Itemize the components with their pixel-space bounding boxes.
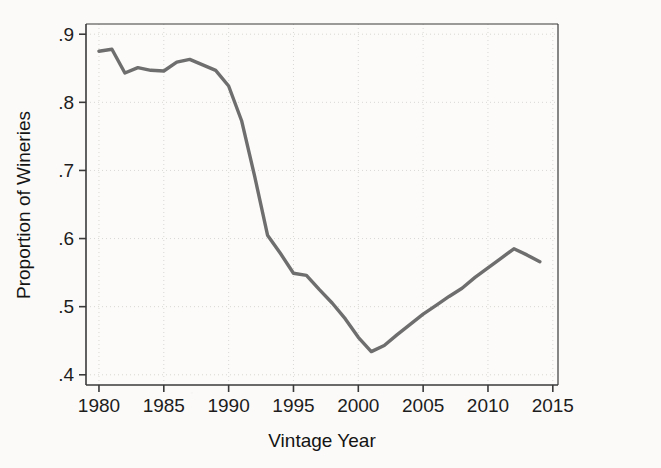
x-tick-label: 2015 bbox=[532, 395, 574, 416]
x-tick-label: 2010 bbox=[467, 395, 509, 416]
x-tick-label: 1995 bbox=[272, 395, 314, 416]
x-tick-label: 2000 bbox=[337, 395, 379, 416]
plot-area-background bbox=[86, 24, 558, 385]
y-axis-ticks: .4.5.6.7.8.9 bbox=[58, 24, 86, 386]
chart-figure: .4.5.6.7.8.9 198019851990199520002005201… bbox=[0, 0, 661, 468]
line-chart: .4.5.6.7.8.9 198019851990199520002005201… bbox=[0, 0, 661, 468]
x-tick-label: 1985 bbox=[143, 395, 185, 416]
y-tick-label: .9 bbox=[58, 24, 74, 45]
y-tick-label: .8 bbox=[58, 92, 74, 113]
x-axis-title: Vintage Year bbox=[268, 430, 376, 451]
y-tick-label: .6 bbox=[58, 228, 74, 249]
x-axis-ticks: 19801985199019952000200520102015 bbox=[78, 385, 574, 416]
x-tick-label: 1980 bbox=[78, 395, 120, 416]
x-tick-label: 1990 bbox=[207, 395, 249, 416]
x-tick-label: 2005 bbox=[402, 395, 444, 416]
y-tick-label: .4 bbox=[58, 364, 74, 385]
y-axis-title: Proportion of Wineries bbox=[13, 111, 34, 299]
y-tick-label: .5 bbox=[58, 296, 74, 317]
y-tick-label: .7 bbox=[58, 160, 74, 181]
